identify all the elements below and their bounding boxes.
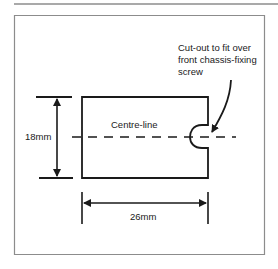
height-dim-label: 18mm — [25, 131, 51, 142]
diagram-canvas: 18mm 26mm Centre-line Cut-out to fit ove… — [0, 0, 278, 269]
cutout-note-line1: Cut-out to fit over — [178, 42, 251, 53]
cutout-note-line3: screw — [178, 66, 203, 77]
width-dim-label: 26mm — [130, 211, 156, 222]
cutout-callout-arrow — [212, 80, 231, 132]
centre-line-label: Centre-line — [111, 119, 157, 130]
cutout-note-line2: front chassis-fixing — [178, 54, 257, 65]
